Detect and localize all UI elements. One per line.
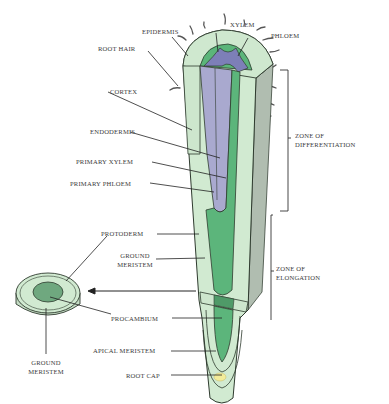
zone-brackets bbox=[271, 70, 291, 320]
cropped-caption bbox=[0, 0, 389, 6]
label-zone-differentiation-1: ZONE OF bbox=[295, 132, 324, 140]
label-cross-ground-meristem-2: MERISTEM bbox=[22, 368, 70, 376]
label-zone-elongation-2: ELONGATION bbox=[276, 274, 320, 282]
label-epidermis: EPIDERMIS bbox=[142, 28, 179, 36]
label-primary-xylem: PRIMARY XYLEM bbox=[76, 158, 133, 166]
section-arrow bbox=[88, 288, 196, 294]
apical-meristem-spot bbox=[214, 373, 226, 381]
root-illustration bbox=[0, 0, 389, 404]
label-phloem: PHLOEM bbox=[271, 32, 299, 40]
cross-section-disk bbox=[16, 273, 80, 315]
label-ground-meristem-1: GROUND bbox=[112, 252, 158, 260]
label-cross-ground-meristem-1: GROUND bbox=[22, 359, 70, 367]
label-cortex: CORTEX bbox=[110, 88, 137, 96]
label-apical-meristem: APICAL MERISTEM bbox=[93, 347, 155, 355]
root-tip-diagram: EPIDERMIS XYLEM PHLOEM ROOT HAIR CORTEX … bbox=[0, 0, 389, 404]
label-endodermis: ENDODERMIS bbox=[90, 128, 135, 136]
label-xylem: XYLEM bbox=[230, 21, 254, 29]
label-protoderm: PROTODERM bbox=[101, 230, 143, 238]
label-root-cap: ROOT CAP bbox=[126, 372, 160, 380]
label-procambium: PROCAMBIUM bbox=[111, 315, 158, 323]
label-primary-phloem: PRIMARY PHLOEM bbox=[70, 180, 131, 188]
label-zone-elongation-1: ZONE OF bbox=[276, 265, 305, 273]
cortex-block bbox=[183, 66, 200, 154]
label-ground-meristem-2: MERISTEM bbox=[112, 261, 158, 269]
label-root-hair: ROOT HAIR bbox=[98, 45, 135, 53]
label-zone-differentiation-2: DIFFERENTIATION bbox=[295, 141, 356, 149]
